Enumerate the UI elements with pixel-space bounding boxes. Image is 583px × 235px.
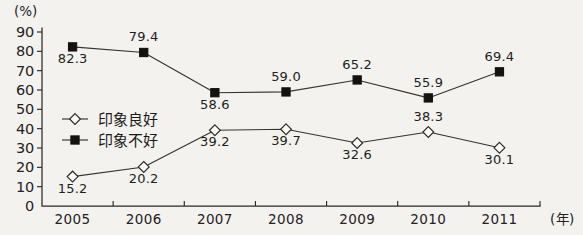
x-axis-tick-label: 2007	[197, 211, 233, 227]
data-point-label: 38.3	[413, 109, 443, 124]
legend-label: 印象良好	[98, 111, 158, 129]
data-point-marker	[211, 89, 219, 97]
legend-label: 印象不好	[98, 132, 158, 150]
data-point-marker	[423, 127, 434, 138]
data-point-label: 69.4	[485, 49, 515, 64]
y-axis-tick-label: 50	[16, 101, 34, 117]
data-point-label: 58.6	[200, 97, 230, 112]
x-axis-tick-label: 2005	[55, 211, 91, 227]
x-axis-tick-label: 2006	[126, 211, 162, 227]
data-point-label: 39.7	[271, 133, 301, 148]
y-axis-tick-label: 60	[16, 82, 34, 98]
y-axis-tick-label: 30	[16, 140, 34, 156]
y-axis-tick-label: 80	[16, 43, 34, 59]
data-point-marker	[495, 68, 503, 76]
legend-marker	[71, 136, 79, 144]
legend-marker	[70, 114, 81, 125]
data-point-marker	[282, 88, 290, 96]
line-chart: 0102030405060708090(%)200520062007200820…	[0, 0, 583, 235]
y-axis-tick-label: 90	[16, 24, 34, 40]
data-point-label: 39.2	[200, 134, 230, 149]
data-point-label: 15.2	[58, 181, 88, 196]
y-axis-tick-label: 70	[16, 63, 34, 79]
data-point-label: 55.9	[413, 75, 443, 90]
data-point-label: 59.0	[271, 69, 301, 84]
x-axis-tick-label: 2010	[410, 211, 446, 227]
data-point-marker	[140, 48, 148, 56]
data-point-marker	[353, 76, 361, 84]
data-point-label: 79.4	[129, 29, 159, 44]
y-axis-tick-label: 0	[25, 198, 34, 214]
y-axis-tick-label: 40	[16, 121, 34, 137]
x-axis-tick-label: 2009	[339, 211, 375, 227]
y-axis-tick-label: 10	[16, 179, 34, 195]
data-point-marker	[68, 43, 76, 51]
data-point-label: 65.2	[342, 57, 372, 72]
x-axis-tick-label: 2008	[268, 211, 304, 227]
y-axis-unit-label: (%)	[14, 3, 37, 19]
data-point-label: 82.3	[58, 51, 88, 66]
x-axis-tick-label: 2011	[481, 211, 517, 227]
y-axis-tick-label: 20	[16, 159, 34, 175]
data-point-marker	[424, 94, 432, 102]
data-point-label: 20.2	[129, 171, 159, 186]
x-axis-unit-label: (年)	[550, 211, 575, 227]
data-point-label: 30.1	[485, 152, 515, 167]
chart-canvas: 0102030405060708090(%)200520062007200820…	[0, 0, 583, 235]
data-point-label: 32.6	[342, 147, 372, 162]
